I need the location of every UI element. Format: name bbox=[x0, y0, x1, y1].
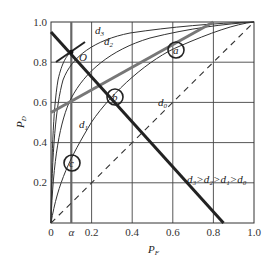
x-axis-title: PF bbox=[147, 243, 160, 257]
svg-text:0.4: 0.4 bbox=[125, 226, 139, 238]
svg-text:1.0: 1.0 bbox=[33, 16, 47, 28]
svg-text:0.2: 0.2 bbox=[85, 226, 99, 238]
svg-text:0.2: 0.2 bbox=[33, 176, 47, 188]
x-ticks: 0 α 0.2 0.4 0.6 0.8 1.0 bbox=[48, 226, 261, 238]
neyman-pearson-line bbox=[51, 32, 224, 223]
y-axis-title: PD bbox=[14, 116, 28, 129]
label-O: O bbox=[79, 51, 87, 63]
svg-text:0.6: 0.6 bbox=[33, 96, 47, 108]
svg-text:0.8: 0.8 bbox=[33, 56, 47, 68]
label-c: c bbox=[69, 157, 74, 169]
label-d1: d1 bbox=[79, 118, 88, 132]
svg-text:0.8: 0.8 bbox=[207, 226, 221, 238]
roc-chart: a b c O d3 d2 d1 d0 d₃>d₂>d₁>d₀ 0.2 0.4 … bbox=[0, 0, 275, 268]
svg-text:0.4: 0.4 bbox=[33, 136, 47, 148]
svg-text:0.6: 0.6 bbox=[166, 226, 180, 238]
point-O-marker bbox=[69, 50, 73, 54]
svg-text:0: 0 bbox=[48, 226, 54, 238]
svg-text:α: α bbox=[68, 226, 74, 238]
svg-text:1.0: 1.0 bbox=[247, 226, 261, 238]
label-d2: d2 bbox=[104, 35, 114, 49]
label-a: a bbox=[173, 44, 179, 56]
y-ticks: 0.2 0.4 0.6 0.8 1.0 bbox=[33, 16, 47, 188]
label-b: b bbox=[112, 91, 118, 103]
label-ordering: d₃>d₂>d₁>d₀ bbox=[187, 173, 247, 185]
label-d0: d0 bbox=[158, 96, 168, 110]
